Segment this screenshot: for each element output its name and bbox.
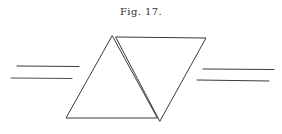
left-prism bbox=[66, 36, 157, 118]
emergent-ray-2 bbox=[197, 80, 269, 81]
incident-rays bbox=[11, 66, 79, 79]
emergent-rays bbox=[197, 69, 274, 81]
incident-ray-1 bbox=[17, 66, 79, 67]
prism-diagram bbox=[0, 0, 282, 134]
right-prism bbox=[116, 37, 206, 121]
incident-ray-2 bbox=[11, 78, 72, 79]
emergent-ray-1 bbox=[203, 69, 274, 70]
